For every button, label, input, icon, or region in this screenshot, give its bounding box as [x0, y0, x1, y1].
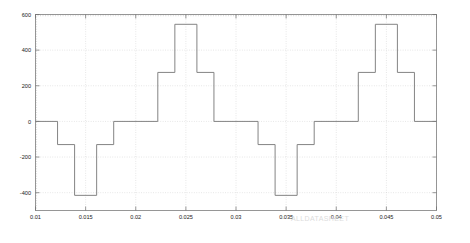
y-axis-tick-label: 600: [22, 12, 31, 18]
x-axis-tick-label: 0.025: [179, 214, 193, 220]
y-axis-tick-label: 400: [22, 47, 31, 53]
x-axis-tick-label: 0.02: [130, 214, 141, 220]
y-axis-tick-label: -200: [20, 154, 31, 160]
y-axis-tick-label: 0: [28, 119, 31, 125]
figure-container: 6004002000-200-400 0.010.0150.020.0250.0…: [0, 0, 470, 243]
x-axis-tick-labels: 0.010.0150.020.0250.030.0350.040.0450.05: [30, 214, 442, 220]
x-axis-tick-label: 0.015: [79, 214, 93, 220]
x-axis-tick-label: 0.03: [231, 214, 242, 220]
chart-plot: 6004002000-200-400 0.010.0150.020.0250.0…: [0, 0, 470, 243]
x-axis-tick-label: 0.045: [379, 214, 393, 220]
x-axis-tick-label: 0.05: [431, 214, 442, 220]
y-axis-tick-label: 200: [22, 83, 31, 89]
y-axis-tick-label: -400: [20, 190, 31, 196]
x-axis-tick-label: 0.01: [30, 214, 41, 220]
watermark-text: ALLDATASHEET: [291, 215, 350, 222]
